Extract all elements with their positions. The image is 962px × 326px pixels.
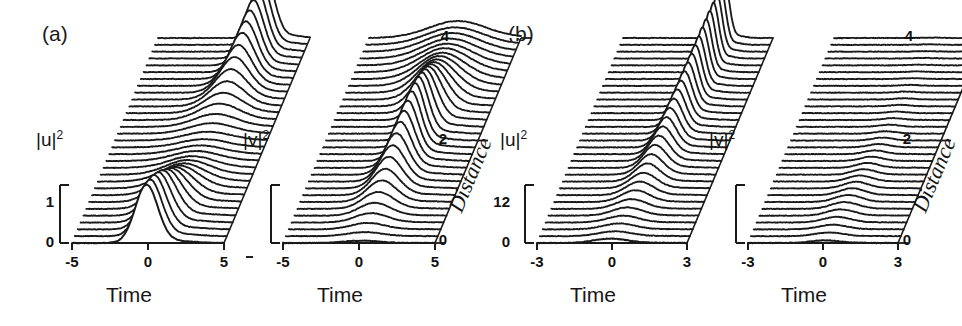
xaxis-title-b-u: Time — [570, 283, 616, 307]
ytick-b-u-top: 12 — [478, 193, 510, 210]
waterfall-plot-a-u — [60, 0, 310, 250]
series-label-a-v-base: |v| — [243, 129, 262, 150]
series-label-b-v-base: |v| — [709, 129, 728, 150]
xtick-a-v-min: -5 — [267, 253, 299, 270]
waterfall-plot-b-v — [736, 37, 962, 250]
ztick-a-2: 2 — [432, 130, 454, 147]
ztick-b-0: 0 — [896, 231, 918, 248]
ztick-b-4: 4 — [898, 27, 920, 44]
xtick-b-u-min: -3 — [521, 253, 553, 270]
ytick-a-u-bottom: 0 — [28, 233, 54, 250]
series-label-a-u-exp: 2 — [56, 128, 63, 142]
xtick-b-v-min: -3 — [732, 253, 764, 270]
series-label-a-v-exp: 2 — [262, 128, 269, 142]
ztick-a-0: 0 — [432, 231, 454, 248]
xaxis-title-b-v: Time — [781, 283, 827, 307]
series-label-b-u: |u|2 — [500, 128, 527, 151]
series-label-a-v: |v|2 — [243, 128, 269, 151]
xaxis-title-a-v: Time — [317, 283, 363, 307]
xtick-b-u-mid: 0 — [596, 253, 628, 270]
series-label-b-u-base: |u| — [500, 129, 520, 150]
figure-canvas: (a) (b) |u|2 1 0 -5 0 5 Time |v|2 -5 0 5… — [0, 0, 962, 326]
xtick-a-u-min: -5 — [56, 253, 88, 270]
waterfall-plot-a-v — [271, 21, 531, 250]
xtick-b-v-mid: 0 — [807, 253, 839, 270]
xtick-b-u-max: 3 — [671, 253, 703, 270]
series-label-b-u-exp: 2 — [520, 128, 527, 142]
ztick-b-2: 2 — [896, 130, 918, 147]
xtick-a-u-mid: 0 — [132, 253, 164, 270]
ztick-a-4: 4 — [434, 27, 456, 44]
xtick-a-u-max: 5 — [208, 253, 240, 270]
xtick-a-v-max: 5 — [419, 253, 451, 270]
series-label-b-v: |v|2 — [709, 128, 735, 151]
series-label-a-u: |u|2 — [36, 128, 63, 151]
ytick-b-u-bottom: 0 — [478, 233, 510, 250]
xtick-a-v-mid: 0 — [343, 253, 375, 270]
series-label-b-v-exp: 2 — [728, 128, 735, 142]
ytick-a-u-top: 1 — [28, 193, 54, 210]
xtick-b-v-max: 3 — [882, 253, 914, 270]
scan-artifact-dash — [246, 256, 253, 258]
series-label-a-u-base: |u| — [36, 129, 56, 150]
xaxis-title-a-u: Time — [106, 283, 152, 307]
